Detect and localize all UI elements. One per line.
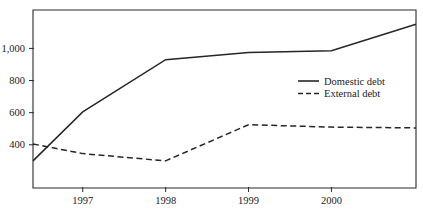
line-chart-figure: 4006008001,000 1997199819992000 Domestic…: [0, 0, 423, 216]
y-tick-label: 600: [9, 107, 25, 118]
x-tick-label: 2000: [321, 195, 342, 206]
y-tick-label: 800: [9, 75, 25, 86]
x-tick-label: 1999: [238, 195, 259, 206]
y-axis-tick-labels: 4006008001,000: [1, 43, 25, 150]
legend-label-external-debt: External debt: [324, 88, 380, 99]
y-tick-label: 400: [9, 139, 25, 150]
legend-label-domestic-debt: Domestic debt: [324, 76, 385, 87]
x-tick-label: 1997: [72, 195, 93, 206]
x-tick-label: 1998: [155, 195, 176, 206]
series-line-external-debt: [33, 125, 416, 161]
chart-canvas: 4006008001,000 1997199819992000 Domestic…: [0, 0, 423, 216]
chart-legend: Domestic debtExternal debt: [298, 76, 385, 100]
x-axis-tick-labels: 1997199819992000: [72, 195, 342, 206]
y-tick-label: 1,000: [1, 43, 25, 54]
